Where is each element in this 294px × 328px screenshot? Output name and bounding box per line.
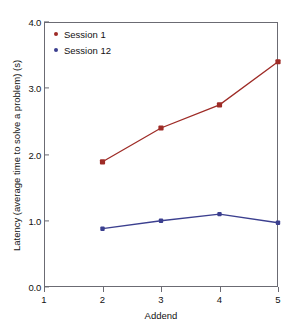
x-axis-tick-label: 4	[208, 294, 232, 305]
y-axis-tick-mark	[44, 21, 49, 22]
y-axis-tick-label: 3.0	[5, 83, 41, 94]
legend-item-label: Session 12	[64, 45, 111, 56]
x-axis-title: Addend	[44, 310, 278, 321]
x-axis-tick-mark	[44, 287, 45, 292]
data-point-marker	[275, 59, 280, 64]
legend-marker-icon	[54, 48, 58, 52]
data-point-marker	[217, 212, 221, 216]
legend-marker-icon	[54, 32, 58, 36]
data-point-marker	[158, 125, 163, 130]
y-axis-tick-label: 4.0	[5, 17, 41, 28]
data-point-marker	[100, 159, 105, 164]
legend-item: Session 1	[54, 27, 111, 41]
x-axis-tick-mark	[161, 287, 162, 292]
x-axis-tick-mark	[220, 287, 221, 292]
data-point-marker	[159, 219, 163, 223]
legend-item-label: Session 1	[64, 29, 106, 40]
y-axis-tick-labels: 0.01.02.03.04.0	[0, 0, 41, 328]
y-axis-tick-label: 2.0	[5, 149, 41, 160]
y-axis-tick-label: 1.0	[5, 215, 41, 226]
y-axis-tick-mark	[44, 88, 49, 89]
x-axis-tick-mark	[278, 287, 279, 292]
y-axis-tick-mark	[44, 220, 49, 221]
legend: Session 1Session 12	[54, 27, 111, 59]
data-point-marker	[217, 102, 222, 107]
latency-line-chart: Latency (average time to solve a problem…	[0, 0, 294, 328]
x-axis-tick-label: 1	[32, 294, 56, 305]
x-axis-tick-label: 3	[149, 294, 173, 305]
x-axis-tick-label: 2	[91, 294, 115, 305]
data-point-marker	[100, 227, 104, 231]
data-point-marker	[276, 221, 280, 225]
series-line	[103, 214, 279, 229]
y-axis-tick-label: 0.0	[5, 282, 41, 293]
y-axis-tick-mark	[44, 154, 49, 155]
legend-item: Session 12	[54, 43, 111, 57]
series-layer	[44, 22, 278, 287]
x-axis-tick-mark	[103, 287, 104, 292]
x-axis-tick-label: 5	[266, 294, 290, 305]
series-line	[103, 62, 279, 162]
